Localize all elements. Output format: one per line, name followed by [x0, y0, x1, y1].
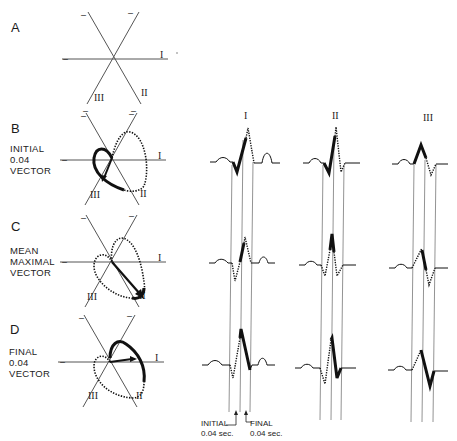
svg-text:I: I [158, 150, 161, 161]
svg-text:III: III [90, 189, 100, 200]
svg-text:I: I [160, 49, 163, 60]
svg-text:III: III [87, 291, 97, 302]
guide-lines-lead-i [229, 140, 253, 412]
vectorcardiogram-figure: – – – I II III – – – – – I II III – – – … [0, 0, 457, 441]
panel-b-loop: – – – I II III [60, 109, 166, 205]
ecg-row-c [209, 234, 448, 285]
svg-text:–: – [81, 111, 86, 121]
svg-text:–: – [60, 357, 65, 367]
svg-text:–: – [129, 109, 134, 119]
ecg-row-b [210, 127, 448, 175]
panel-c-loop: – – – I II III [60, 211, 166, 307]
footnote-arrows [226, 410, 252, 425]
svg-text:–: – [81, 213, 86, 223]
panel-a-triaxial: – – – I II III – – [62, 8, 178, 116]
svg-text:–: – [81, 10, 86, 20]
svg-text:–: – [128, 8, 133, 18]
svg-text:III: III [94, 92, 104, 103]
svg-text:I: I [155, 352, 158, 363]
svg-text:–: – [79, 313, 84, 323]
svg-text:II: II [136, 390, 143, 401]
svg-text:–: – [129, 211, 134, 221]
ecg-row-d [202, 329, 448, 386]
svg-text:–: – [127, 311, 132, 321]
svg-text:II: II [141, 87, 148, 98]
svg-text:III: III [88, 390, 98, 401]
svg-text:–: – [62, 257, 67, 267]
panel-d-loop: – – – I II III [58, 311, 164, 407]
svg-text:I: I [158, 252, 161, 263]
svg-text:–: – [63, 54, 68, 64]
svg-text:–: – [62, 155, 67, 165]
